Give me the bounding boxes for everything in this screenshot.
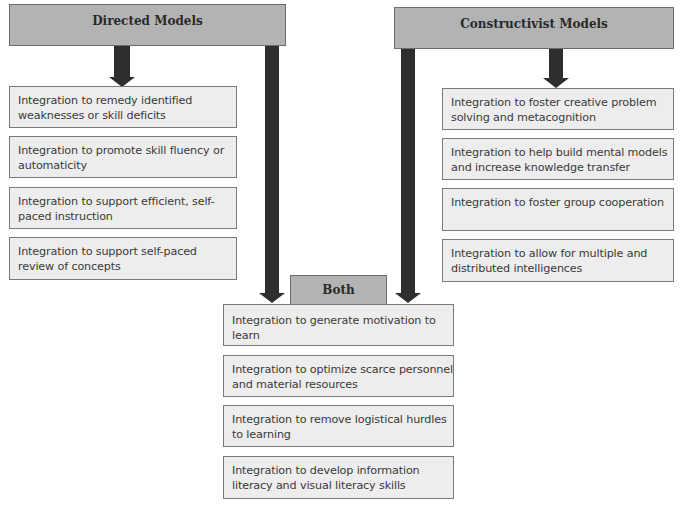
constructivist-item: Integration to allow for multiple and di… xyxy=(442,239,674,282)
constructivist-models-header: Constructivist Models xyxy=(394,7,674,49)
both-header: Both xyxy=(290,275,387,305)
directed-item: Integration to promote skill fluency or … xyxy=(9,136,237,178)
both-item: Integration to remove logistical hurdles… xyxy=(223,405,454,447)
constructivist-item: Integration to help build mental models … xyxy=(442,138,674,180)
both-item: Integration to develop information liter… xyxy=(223,456,454,499)
constructivist-item: Integration to foster creative problem s… xyxy=(442,88,674,130)
directed-item: Integration to support efficient, self-p… xyxy=(9,187,237,229)
directed-models-header: Directed Models xyxy=(9,4,286,46)
directed-item: Integration to remedy identified weaknes… xyxy=(9,86,237,128)
both-item: Integration to generate motivation to le… xyxy=(223,304,454,346)
both-item: Integration to optimize scarce personnel… xyxy=(223,355,454,397)
directed-item: Integration to support self-paced review… xyxy=(9,237,237,280)
constructivist-item: Integration to foster group cooperation xyxy=(442,188,674,231)
